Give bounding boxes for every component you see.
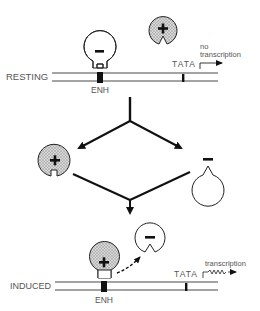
repressor-released-icon [192,158,224,206]
repressor-displaced-icon [135,223,165,252]
activator-free-icon [149,17,177,44]
tata-box [185,283,187,291]
enhancer-element [97,72,103,83]
tata-box [182,74,184,82]
tata-label: TATA [172,59,196,69]
transition [38,97,224,213]
right-branch-arrow-icon [130,121,181,148]
induced-label: INDUCED [10,281,52,291]
activator-bound-icon [90,241,120,278]
repressor-bound-icon [84,31,116,68]
tss-arrow-icon [200,63,222,69]
induced-state: INDUCED ENH TATA transcription [10,223,246,305]
left-branch-arrow-icon [79,121,130,148]
enhancer-label: ENH [91,85,109,95]
enhancer-label: ENH [95,295,113,305]
left-merge-line [73,174,130,200]
enhancer-element [101,281,107,292]
no-transcription-label: transcription [200,50,241,59]
displacement-arrow-icon [117,257,140,273]
transcription-label: transcription [205,259,246,268]
resting-label: RESTING [6,71,48,82]
resting-state: RESTING ENH TATA no transcription [6,17,241,95]
diagram-canvas: RESTING ENH TATA no transcription [0,0,260,311]
tata-label: TATA [174,269,198,279]
transcript-wave-icon [203,270,226,278]
gene-regulation-diagram: RESTING ENH TATA no transcription [0,0,260,311]
right-merge-line [130,172,190,200]
activator-released-icon [38,144,70,176]
